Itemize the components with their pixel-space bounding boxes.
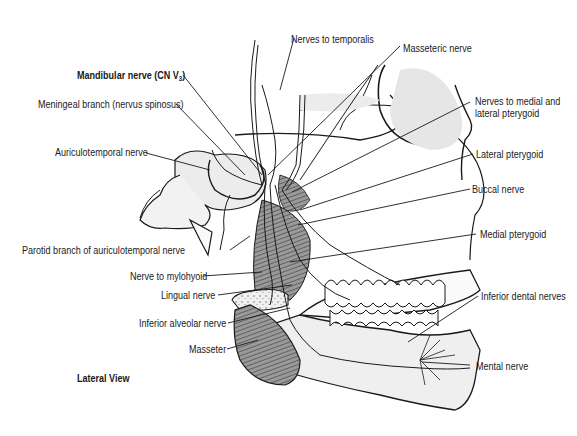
lateral-pterygoid-muscle [278, 175, 310, 211]
label-nerves-to-temporalis: Nerves to temporalis [291, 33, 374, 45]
label-lateral-pterygoid: Lateral pterygoid [476, 148, 543, 160]
ear-region [140, 151, 266, 255]
label-masseteric-nerve: Masseteric nerve [403, 42, 472, 54]
medial-pterygoid-muscle [254, 200, 311, 300]
teeth [325, 280, 445, 326]
label-nerve-to-mylohyoid: Nerve to mylohyoid [130, 270, 207, 282]
label-nerves-to-pterygoid: Nerves to medial and lateral pterygoid [475, 95, 560, 119]
label-medial-pterygoid: Medial pterygoid [480, 228, 546, 240]
label-mandibular-nerve: Mandibular nerve (CN V3) [77, 69, 185, 81]
cut-ramus [232, 290, 288, 311]
label-inferior-alveolar-nerve: Inferior alveolar nerve [139, 317, 226, 329]
label-lingual-nerve: Lingual nerve [161, 289, 215, 301]
label-mental-nerve: Mental nerve [476, 360, 528, 372]
label-auriculotemporal-nerve: Auriculotemporal nerve [55, 146, 148, 158]
masseter-muscle [234, 305, 300, 385]
label-inferior-dental-nerves: Inferior dental nerves [481, 290, 566, 302]
label-masseter: Masseter [189, 343, 226, 355]
label-buccal-nerve: Buccal nerve [472, 183, 524, 195]
label-parotid-branch: Parotid branch of auriculotemporal nerve [22, 244, 185, 256]
view-caption: Lateral View [77, 372, 130, 384]
label-meningeal-branch: Meningeal branch (nervus spinosus) [38, 98, 184, 110]
